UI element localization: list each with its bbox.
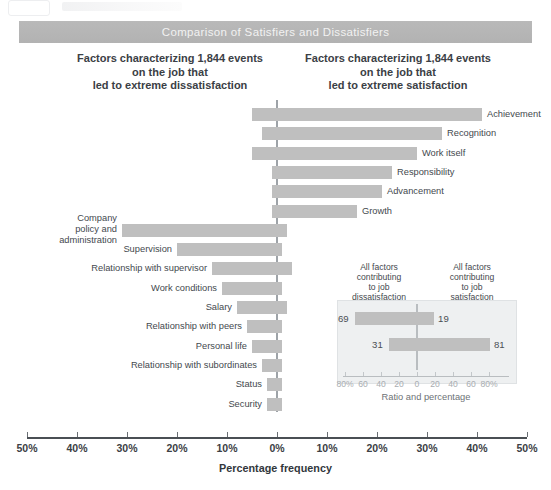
page-header-artifact [62, 2, 182, 11]
x-tick-label: 10% [216, 442, 237, 454]
bar [247, 320, 282, 333]
bar [177, 243, 282, 256]
inset-baseline [343, 376, 509, 377]
bar-label: Relationship with subordinates [131, 359, 257, 372]
inset-tick-label: 80% [480, 379, 497, 389]
inset-bar [389, 338, 490, 351]
bar [222, 282, 282, 295]
x-tick-label: 20% [366, 442, 387, 454]
inset-right-value: 81 [494, 338, 505, 351]
bar-row: Recognition [27, 127, 527, 140]
x-tick-label: 10% [316, 442, 337, 454]
inset-tick [435, 372, 436, 376]
inset-tick [417, 372, 418, 376]
bar-label: Responsibility [397, 166, 454, 179]
bar-label: Achievement [487, 108, 541, 121]
bar [272, 166, 392, 179]
x-tick [227, 432, 228, 437]
bar-label: Advancement [387, 185, 444, 198]
bar-label: Company policy and administration [59, 213, 117, 246]
x-axis-title: Percentage frequency [0, 462, 551, 474]
chart-figure: Comparison of Satisfiers and Dissatisfie… [0, 0, 551, 490]
x-axis-line [27, 437, 527, 439]
bar-label: Security [228, 398, 262, 411]
inset-tick-label: 80% [336, 379, 353, 389]
inset-ratio-chart: All factors contributing to job dissatis… [337, 262, 515, 404]
inset-bar-row: 3181 [337, 338, 515, 351]
bar-label: Work conditions [151, 282, 217, 295]
bar-row: Company policy and administration [27, 224, 527, 237]
x-tick-label: 50% [516, 442, 537, 454]
bar-label: Work itself [422, 147, 465, 160]
caption-dissatisfaction: Factors characterizing 1,844 events on t… [62, 52, 278, 93]
bar [252, 108, 482, 121]
inset-tick [399, 372, 400, 376]
bar-row: Work itself [27, 147, 527, 160]
page-corner-artifact [8, 0, 50, 16]
x-tick [477, 432, 478, 437]
bar-label: Supervision [123, 243, 172, 256]
inset-tick-label: 60 [358, 379, 368, 389]
x-tick-label: 40% [66, 442, 87, 454]
bar [122, 224, 287, 237]
inset-tick [453, 372, 454, 376]
x-tick [327, 432, 328, 437]
inset-caption-satisfaction: All factors contributing to job satisfac… [432, 262, 512, 302]
inset-tick-label: 60 [466, 379, 476, 389]
bar [267, 398, 282, 411]
inset-bar [355, 312, 434, 325]
inset-bar-row: 6919 [337, 312, 515, 325]
inset-tick [363, 372, 364, 376]
x-tick-label: 40% [466, 442, 487, 454]
inset-tick-label: 20 [430, 379, 440, 389]
inset-caption-dissatisfaction: All factors contributing to job dissatis… [339, 262, 419, 302]
bar [262, 359, 282, 372]
bar-label: Growth [362, 205, 392, 218]
bar-row: Achievement [27, 108, 527, 121]
chart-title: Comparison of Satisfiers and Dissatisfie… [162, 26, 390, 38]
inset-tick-label: 20 [394, 379, 404, 389]
bar-label: Status [236, 378, 262, 391]
x-tick-label: 30% [116, 442, 137, 454]
x-tick [177, 432, 178, 437]
bar [262, 127, 442, 140]
bar-row: Advancement [27, 185, 527, 198]
inset-tick-label: 0 [415, 379, 420, 389]
bar [212, 262, 292, 275]
chart-title-banner: Comparison of Satisfiers and Dissatisfie… [19, 21, 532, 43]
bar-label: Salary [206, 301, 232, 314]
x-tick [377, 432, 378, 437]
inset-left-value: 31 [372, 338, 383, 351]
bar-label: Recognition [447, 127, 496, 140]
x-tick-label: 0% [269, 442, 284, 454]
inset-tick-label: 40 [448, 379, 458, 389]
bar-label: Personal life [196, 340, 247, 353]
x-tick-label: 50% [16, 442, 37, 454]
inset-right-value: 19 [438, 312, 449, 325]
x-tick [127, 432, 128, 437]
bar [272, 205, 357, 218]
x-tick-label: 20% [166, 442, 187, 454]
x-tick-label: 30% [416, 442, 437, 454]
bar-row: Responsibility [27, 166, 527, 179]
bar [267, 378, 282, 391]
inset-title: Ratio and percentage [337, 392, 515, 402]
inset-left-value: 69 [338, 312, 349, 325]
bar [252, 147, 417, 160]
inset-tick-label: 40 [376, 379, 386, 389]
x-tick [27, 432, 28, 437]
x-tick [77, 432, 78, 437]
inset-tick [381, 372, 382, 376]
bar [272, 185, 382, 198]
caption-satisfaction: Factors characterizing 1,844 events on t… [290, 52, 506, 93]
inset-tick [471, 372, 472, 376]
bar [237, 301, 287, 314]
bar-label: Relationship with peers [146, 320, 242, 333]
bar [252, 340, 282, 353]
bar-row: Supervision [27, 243, 527, 256]
bar-label: Relationship with supervisor [91, 262, 207, 275]
inset-tick [489, 372, 490, 376]
x-tick [427, 432, 428, 437]
inset-tick [345, 372, 346, 376]
x-tick [277, 432, 278, 437]
